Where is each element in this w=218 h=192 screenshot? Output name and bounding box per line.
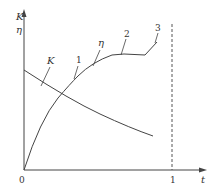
x-tick-label-1: 1 xyxy=(170,175,176,185)
curve-label-1: 1 xyxy=(76,55,82,65)
curve-label-k: K xyxy=(46,55,55,66)
eta-curve xyxy=(24,42,157,170)
eta-leader-line xyxy=(93,50,100,66)
y-axis-label-eta: η xyxy=(16,24,22,35)
curve-label-3: 3 xyxy=(155,23,161,33)
origin-label: 0 xyxy=(19,175,25,185)
curve-label-eta: η xyxy=(98,37,104,48)
y-axis-label-k: K xyxy=(15,11,24,22)
figure: K η K 1 η 2 3 0 1 t xyxy=(0,0,218,192)
label-3-leader-line xyxy=(155,33,158,43)
label-2-leader-line xyxy=(121,39,126,55)
curve-label-2: 2 xyxy=(124,29,130,39)
k-curve xyxy=(24,70,153,136)
x-axis-arrow-icon xyxy=(199,168,207,173)
x-axis-label-t: t xyxy=(201,174,206,185)
